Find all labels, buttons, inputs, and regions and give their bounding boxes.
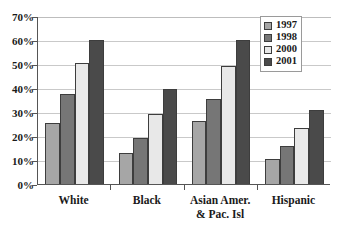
x-axis-tick-mark xyxy=(184,185,185,190)
y-axis-tick-label: 40% xyxy=(2,84,34,95)
y-axis-tick-mark xyxy=(32,65,37,66)
bar-1997-white xyxy=(45,123,60,184)
bar-2001-black xyxy=(163,89,178,184)
bar-2000-hispanic xyxy=(294,128,309,184)
x-axis-category-label: Hispanic xyxy=(257,193,330,207)
bar-group xyxy=(192,17,251,184)
bar-1998-hispanic xyxy=(280,146,295,184)
y-axis-tick-mark xyxy=(32,185,37,186)
y-axis-tick-mark xyxy=(32,161,37,162)
y-axis-tick-label: 20% xyxy=(2,132,34,143)
legend-item-2000: 2000 xyxy=(264,44,297,55)
x-axis-tick-mark xyxy=(257,185,258,190)
bar-1997-asian-amer-pac-isl xyxy=(192,121,207,184)
y-axis-tick-label: 10% xyxy=(2,156,34,167)
legend-item-1998: 1998 xyxy=(264,32,297,43)
x-axis-category-label-line: Asian Amer. xyxy=(184,193,257,207)
bar-2001-hispanic xyxy=(309,110,324,184)
x-axis-category-label: Asian Amer.& Pac. Isl xyxy=(184,193,257,222)
chart-legend: 1997199820002001 xyxy=(260,16,302,72)
legend-swatch-2000 xyxy=(264,46,272,54)
bar-1998-white xyxy=(60,94,75,184)
legend-label: 1998 xyxy=(276,32,297,43)
bar-1997-hispanic xyxy=(265,159,280,184)
y-axis-tick-mark xyxy=(32,113,37,114)
bar-group xyxy=(45,17,104,184)
y-axis-tick-mark xyxy=(32,17,37,18)
x-axis-tick-mark xyxy=(110,185,111,190)
x-axis-category-label-line: Hispanic xyxy=(257,193,330,207)
y-axis-tick-mark xyxy=(32,137,37,138)
y-axis-tick-label: 0% xyxy=(2,180,34,191)
legend-label: 2001 xyxy=(276,56,297,67)
bar-group xyxy=(119,17,178,184)
legend-item-1997: 1997 xyxy=(264,20,297,31)
bar-2001-asian-amer-pac-isl xyxy=(236,40,251,184)
legend-label: 1997 xyxy=(276,20,297,31)
bar-2000-white xyxy=(75,63,90,184)
x-axis-category-label: White xyxy=(37,193,110,207)
legend-swatch-2001 xyxy=(264,58,272,66)
y-axis-tick-label: 70% xyxy=(2,12,34,23)
bar-2001-white xyxy=(89,40,104,184)
bar-1998-asian-amer-pac-isl xyxy=(206,99,221,184)
legend-item-2001: 2001 xyxy=(264,56,297,67)
y-axis-tick-mark xyxy=(32,89,37,90)
x-axis-category-label-line: White xyxy=(37,193,110,207)
bar-1998-black xyxy=(133,138,148,184)
y-axis-tick-label: 30% xyxy=(2,108,34,119)
bar-2000-black xyxy=(148,114,163,184)
x-axis-category-label: Black xyxy=(110,193,183,207)
y-axis-tick-label: 60% xyxy=(2,36,34,47)
y-axis-tick-label: 50% xyxy=(2,60,34,71)
y-axis-tick-mark xyxy=(32,41,37,42)
x-axis-category-label-line: & Pac. Isl xyxy=(184,207,257,221)
bar-2000-asian-amer-pac-isl xyxy=(221,66,236,184)
legend-label: 2000 xyxy=(276,44,297,55)
bar-1997-black xyxy=(119,153,134,184)
legend-swatch-1998 xyxy=(264,34,272,42)
legend-swatch-1997 xyxy=(264,22,272,30)
bar-chart: WhiteBlackAsian Amer.& Pac. IslHispanic … xyxy=(0,0,343,237)
x-axis-category-label-line: Black xyxy=(110,193,183,207)
